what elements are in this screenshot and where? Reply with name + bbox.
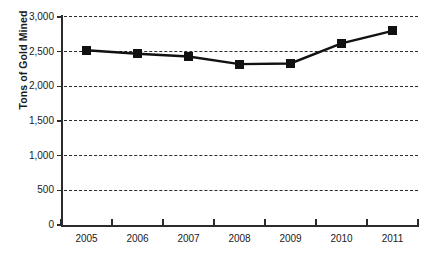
data-point-marker bbox=[82, 46, 91, 55]
y-tick-label: 2,000 bbox=[8, 81, 54, 91]
y-tick-mark bbox=[57, 16, 63, 18]
x-tick-mark bbox=[417, 219, 419, 226]
data-point-marker bbox=[388, 26, 397, 35]
data-point-marker bbox=[286, 59, 295, 68]
gridline bbox=[64, 120, 418, 121]
y-tick-label: 1,000 bbox=[8, 151, 54, 161]
y-tick-mark bbox=[57, 120, 63, 122]
gridline bbox=[64, 155, 418, 156]
y-tick-mark bbox=[57, 86, 63, 88]
y-tick-mark bbox=[57, 190, 63, 192]
y-tick-label: 500 bbox=[8, 185, 54, 195]
data-point-marker bbox=[235, 60, 244, 69]
x-tick-label: 2011 bbox=[363, 233, 423, 244]
data-point-marker bbox=[184, 52, 193, 61]
x-tick-mark bbox=[111, 219, 113, 226]
gridline bbox=[64, 86, 418, 87]
y-tick-label: 2,500 bbox=[8, 47, 54, 57]
y-tick-mark bbox=[57, 51, 63, 53]
x-tick-mark bbox=[264, 219, 266, 226]
x-tick-mark bbox=[213, 219, 215, 226]
x-tick-mark bbox=[315, 219, 317, 226]
gold-mined-line-chart: Tons of Gold Mined 3,0002,5002,0001,5001… bbox=[0, 0, 430, 257]
y-tick-label: 3,000 bbox=[8, 12, 54, 22]
data-point-marker bbox=[337, 39, 346, 48]
gridline bbox=[64, 51, 418, 52]
y-tick-mark bbox=[57, 155, 63, 157]
y-tick-label: 1,500 bbox=[8, 116, 54, 126]
data-point-marker bbox=[133, 49, 142, 58]
y-tick-label: 0 bbox=[8, 220, 54, 230]
x-tick-mark bbox=[366, 219, 368, 226]
x-tick-mark bbox=[162, 219, 164, 226]
gridline bbox=[64, 190, 418, 191]
x-tick-mark bbox=[60, 219, 62, 226]
gridline bbox=[64, 16, 418, 17]
